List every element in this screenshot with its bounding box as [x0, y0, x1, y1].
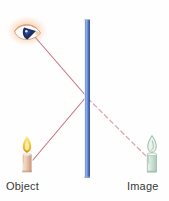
virtual-image-candle	[147, 136, 157, 173]
eye-glint	[25, 30, 28, 33]
object-candle	[22, 136, 32, 173]
virtual-ray	[88, 99, 147, 158]
image-label: Image	[127, 181, 159, 192]
reflection-diagram: Object Image	[0, 0, 169, 201]
candle-base	[22, 171, 32, 173]
candle-shade	[29, 155, 31, 172]
diagram-canvas	[0, 0, 169, 201]
image-candle-base	[147, 171, 157, 173]
reflected-ray	[35, 37, 87, 97]
incident-ray	[33, 97, 87, 161]
object-label: Object	[6, 181, 39, 192]
plane-mirror	[84, 19, 90, 178]
light-rays	[33, 37, 147, 160]
